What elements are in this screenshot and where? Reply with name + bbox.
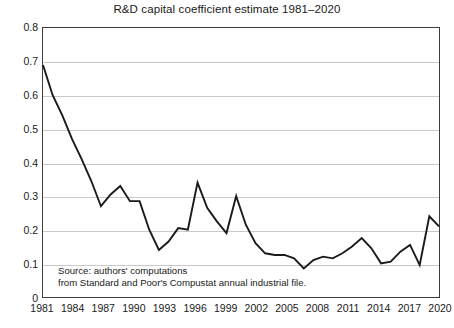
x-axis-tick-label: 2005 bbox=[275, 302, 298, 314]
source-note-line-1: Source: authors' computations bbox=[58, 265, 306, 277]
data-series-line bbox=[43, 28, 439, 297]
y-axis-tick-label: 0.7 bbox=[0, 55, 38, 67]
source-note: Source: authors' computations from Stand… bbox=[58, 265, 306, 288]
plot-area bbox=[42, 27, 440, 298]
x-axis-tick-label: 2008 bbox=[306, 302, 329, 314]
x-axis-tick-label: 1990 bbox=[122, 302, 145, 314]
x-axis-tick-label: 1996 bbox=[183, 302, 206, 314]
x-axis-tick-label: 2017 bbox=[398, 302, 421, 314]
y-axis-tick-label: 0.4 bbox=[0, 157, 38, 169]
x-axis: 1981198419871990199319961999200220052008… bbox=[0, 302, 454, 322]
x-axis-tick-label: 1999 bbox=[214, 302, 237, 314]
y-axis: 00.10.20.30.40.50.60.70.8 bbox=[0, 0, 38, 328]
y-axis-tick-label: 0.3 bbox=[0, 190, 38, 202]
x-axis-tick-label: 1984 bbox=[61, 302, 84, 314]
chart-figure: R&D capital coefficient estimate 1981–20… bbox=[0, 0, 454, 328]
y-axis-tick-label: 0.8 bbox=[0, 21, 38, 33]
y-axis-tick-label: 0.6 bbox=[0, 89, 38, 101]
x-axis-tick-label: 2002 bbox=[245, 302, 268, 314]
source-note-line-2: from Standard and Poor's Compustat annua… bbox=[58, 277, 306, 289]
x-axis-tick-label: 1987 bbox=[92, 302, 115, 314]
y-axis-tick-label: 0.5 bbox=[0, 123, 38, 135]
chart-title: R&D capital coefficient estimate 1981–20… bbox=[0, 3, 454, 15]
x-axis-tick-label: 1981 bbox=[30, 302, 53, 314]
x-axis-tick-label: 2011 bbox=[337, 302, 360, 314]
x-axis-tick-label: 2020 bbox=[428, 302, 451, 314]
x-axis-tick-label: 1993 bbox=[153, 302, 176, 314]
x-axis-tick-label: 2014 bbox=[367, 302, 390, 314]
y-axis-tick-label: 0.1 bbox=[0, 258, 38, 270]
y-axis-tick-label: 0.2 bbox=[0, 224, 38, 236]
